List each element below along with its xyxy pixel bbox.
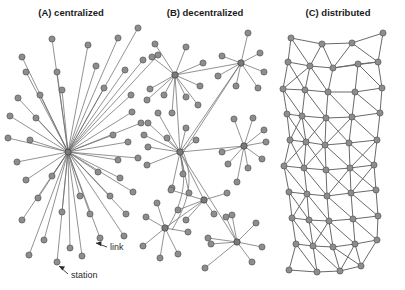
- station-node: [307, 63, 313, 69]
- panel-title-distributed: (C) distributed: [306, 7, 371, 18]
- station-node: [261, 127, 267, 133]
- station-node: [255, 85, 261, 91]
- station-node: [375, 213, 381, 219]
- station-node: [302, 87, 308, 93]
- station-node: [101, 85, 107, 91]
- station-node: [26, 252, 32, 258]
- station-node: [152, 41, 158, 47]
- station-node: [155, 110, 161, 116]
- station-node: [183, 44, 189, 50]
- station-node: [211, 211, 217, 217]
- station-node: [186, 190, 192, 196]
- station-node: [59, 209, 65, 215]
- station-node: [249, 259, 255, 265]
- station-node: [19, 54, 25, 60]
- station-node: [115, 157, 121, 163]
- station-node: [358, 263, 364, 269]
- station-node: [225, 161, 231, 167]
- station-node: [319, 41, 325, 47]
- station-node: [286, 267, 292, 273]
- station-node: [115, 35, 121, 41]
- station-node: [219, 149, 225, 155]
- station-node: [288, 35, 294, 41]
- network-topology-figure: (A) centralized (B) decentralized (C) di…: [0, 0, 405, 290]
- station-node: [284, 111, 290, 117]
- station-node: [375, 59, 381, 65]
- station-node: [145, 120, 151, 126]
- station-node: [379, 85, 385, 91]
- station-node: [23, 177, 29, 183]
- station-node: [233, 83, 239, 89]
- station-node: [7, 113, 13, 119]
- station-node: [355, 61, 361, 67]
- annotation-link-label: link: [110, 242, 124, 252]
- station-node: [135, 25, 141, 31]
- station-node: [164, 135, 170, 141]
- station-node: [195, 102, 201, 108]
- station-node: [350, 216, 356, 222]
- station-node: [117, 175, 123, 181]
- station-node: [346, 140, 352, 146]
- station-node: [314, 269, 320, 275]
- station-node: [373, 187, 379, 193]
- station-node: [310, 243, 316, 249]
- station-node: [281, 163, 287, 169]
- station-node: [325, 89, 331, 95]
- station-node: [143, 214, 149, 220]
- station-node: [347, 165, 353, 171]
- station-node: [253, 220, 259, 226]
- station-node: [5, 135, 11, 141]
- station-node: [183, 217, 189, 223]
- station-node: [168, 187, 174, 193]
- station-node: [128, 92, 134, 98]
- station-node: [250, 115, 256, 121]
- station-node: [257, 50, 263, 56]
- station-node: [193, 137, 199, 143]
- station-node: [259, 244, 265, 250]
- station-node: [87, 211, 93, 217]
- station-node: [79, 253, 85, 259]
- station-node: [330, 244, 336, 250]
- station-node: [337, 268, 343, 274]
- station-node: [121, 233, 127, 239]
- station-node: [287, 137, 293, 143]
- station-node: [125, 139, 131, 145]
- station-node: [49, 173, 55, 179]
- station-node: [219, 53, 225, 59]
- station-node: [259, 156, 265, 162]
- station-node: [155, 52, 161, 58]
- station-node: [41, 237, 47, 243]
- regional-hub-node: [162, 225, 168, 231]
- station-node: [37, 92, 43, 98]
- regional-hub-node: [238, 60, 244, 66]
- station-node: [140, 57, 146, 63]
- regional-hub-node: [177, 149, 183, 155]
- station-node: [138, 120, 144, 126]
- regional-hub-node: [201, 197, 207, 203]
- panel-title-decentralized: (B) decentralized: [167, 7, 244, 18]
- station-node: [180, 171, 186, 177]
- station-node: [85, 42, 91, 48]
- station-node: [147, 86, 153, 92]
- station-node: [261, 69, 267, 75]
- station-node: [330, 65, 336, 71]
- station-node: [289, 215, 295, 221]
- station-node: [95, 169, 101, 175]
- annotation-station-label: station: [71, 270, 98, 280]
- station-node: [371, 162, 377, 168]
- station-node: [234, 179, 240, 185]
- station-node: [245, 30, 251, 36]
- station-node: [122, 67, 128, 73]
- station-node: [352, 241, 358, 247]
- station-node: [245, 165, 251, 171]
- regional-hub-node: [241, 143, 247, 149]
- station-node: [348, 190, 354, 196]
- station-node: [280, 86, 286, 92]
- regional-hub-node: [234, 239, 240, 245]
- station-node: [33, 115, 39, 121]
- station-node: [107, 193, 113, 199]
- station-node: [67, 245, 73, 251]
- station-node: [123, 211, 129, 217]
- station-node: [129, 109, 135, 115]
- station-node: [323, 167, 329, 173]
